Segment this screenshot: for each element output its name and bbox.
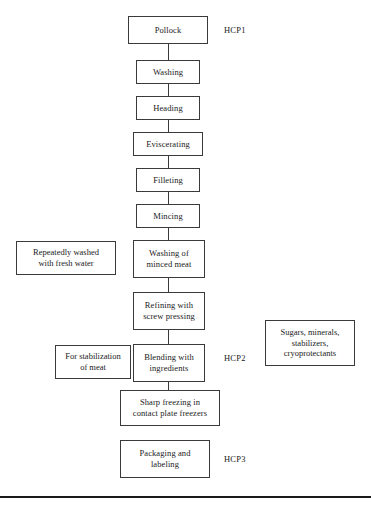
connector-filleting-mincing: [168, 192, 169, 204]
side-note-label: For stabilization of meat: [65, 351, 120, 373]
flowchart-canvas: PollockWashingHeadingEvisceratingFilleti…: [0, 0, 371, 509]
process-box-label: Heading: [153, 103, 183, 114]
process-box-label: Filleting: [153, 175, 183, 186]
side-note-for-stabilization[interactable]: For stabilization of meat: [55, 345, 131, 379]
connector-washing-heading: [168, 84, 169, 96]
process-box-label: Pollock: [155, 25, 182, 36]
process-box-label: Packaging and labeling: [139, 448, 190, 470]
process-box-washing[interactable]: Washing: [136, 60, 200, 84]
process-box-label: Mincing: [153, 211, 183, 222]
process-box-label: Blending with ingredients: [144, 352, 194, 374]
connector-heading-eviscerating: [168, 120, 169, 132]
connector-washing-minced-refining: [168, 278, 169, 292]
process-box-label: Eviscerating: [146, 139, 190, 150]
process-box-sharp-freezing[interactable]: Sharp freezing in contact plate freezers: [120, 390, 220, 426]
process-box-washing-minced-meat[interactable]: Washing of minced meat: [133, 240, 205, 278]
process-box-label: Washing: [153, 67, 183, 78]
connector-pollock-washing: [168, 44, 169, 60]
process-box-label: Sharp freezing in contact plate freezers: [133, 397, 207, 419]
bottom-page-rule: [0, 496, 371, 498]
connector-mincing-washing-minced: [168, 228, 169, 240]
side-note-label: Repeatedly washed with fresh water: [33, 247, 99, 269]
side-note-label: Sugars, minerals, stabilizers, cryoprote…: [281, 327, 340, 360]
process-box-refining[interactable]: Refining with screw pressing: [133, 292, 205, 330]
process-box-heading[interactable]: Heading: [136, 96, 200, 120]
connector-refining-blending: [168, 330, 169, 344]
process-box-packaging[interactable]: Packaging and labeling: [120, 440, 210, 478]
process-box-label: Washing of minced meat: [147, 248, 192, 270]
process-box-eviscerating[interactable]: Eviscerating: [133, 132, 203, 156]
process-box-pollock[interactable]: Pollock: [128, 16, 208, 44]
process-box-mincing[interactable]: Mincing: [136, 204, 200, 228]
process-box-filleting[interactable]: Filleting: [136, 168, 200, 192]
side-note-ingredients-list[interactable]: Sugars, minerals, stabilizers, cryoprote…: [265, 320, 355, 366]
hcp-label-hcp1: HCP1: [224, 26, 246, 35]
connector-eviscerating-filleting: [168, 156, 169, 168]
side-note-repeatedly-washed[interactable]: Repeatedly washed with fresh water: [16, 241, 116, 275]
process-box-label: Refining with screw pressing: [143, 300, 195, 322]
hcp-label-hcp3: HCP3: [224, 455, 246, 464]
process-box-blending[interactable]: Blending with ingredients: [133, 344, 205, 382]
hcp-label-hcp2: HCP2: [224, 354, 246, 363]
connector-blending-sharp-freezing: [168, 382, 169, 390]
